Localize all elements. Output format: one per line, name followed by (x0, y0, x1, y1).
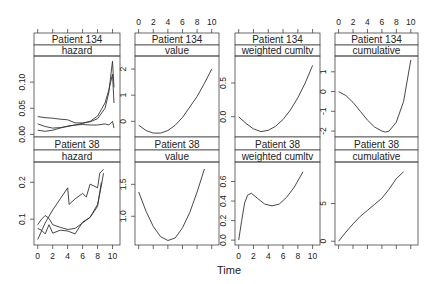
plot-frame (335, 162, 418, 245)
series-line (38, 74, 114, 128)
y-tick-label: 0.00 (17, 126, 27, 143)
strip-patient-label: Patient 134 (52, 34, 103, 45)
y-tick-label: 5 (318, 201, 328, 206)
x-tick-label: 0 (136, 17, 141, 27)
plot-frame (34, 162, 120, 245)
strip-patient-label: Patient 38 (154, 139, 199, 150)
strip-patient-label: Patient 38 (354, 139, 399, 150)
strip-variable-label: weighted cumltv (241, 151, 314, 162)
x-tick-label: 2 (351, 17, 356, 27)
strip-variable-label: cumulative (353, 45, 401, 56)
x-tick-label: 10 (108, 251, 118, 261)
lattice-chart: Patient 134hazard0.000.050.10Patient 134… (0, 0, 442, 284)
y-tick-label: 1.5 (118, 178, 128, 190)
x-tick-label: 4 (65, 251, 70, 261)
y-tick-label: 0 (318, 239, 328, 244)
strip-variable-label: weighted cumltv (241, 45, 314, 56)
panel-1-0: Patient 38hazard0.10.20246810 (17, 137, 120, 261)
x-axis-label: Time (217, 264, 241, 276)
strip-variable-label: value (165, 151, 189, 162)
y-tick-label: 0.05 (17, 100, 27, 117)
panel-1-1: Patient 38value1.01.5 (118, 137, 219, 249)
panel-0-1: Patient 134value0120246810 (118, 17, 219, 137)
y-tick-label: 0.6 (218, 175, 228, 187)
x-tick-label: 6 (281, 251, 286, 261)
x-tick-label: 10 (406, 17, 416, 27)
y-tick-label: 0.1 (17, 213, 27, 225)
x-tick-label: 4 (365, 17, 370, 27)
strip-patient-label: Patient 134 (152, 34, 203, 45)
x-tick-label: 10 (308, 251, 318, 261)
x-tick-label: 0 (336, 17, 341, 27)
y-tick-label: 0.10 (17, 74, 27, 91)
strip-variable-label: cumulative (353, 151, 401, 162)
strip-patient-label: Patient 38 (54, 139, 99, 150)
strip-patient-label: Patient 134 (252, 34, 303, 45)
plot-frame (135, 56, 219, 137)
x-tick-label: 8 (195, 17, 200, 27)
y-tick-label: 0.5 (218, 77, 228, 89)
y-tick-label: 0.2 (218, 214, 228, 226)
x-tick-label: 6 (380, 17, 385, 27)
chart-canvas: Patient 134hazard0.000.050.10Patient 134… (0, 0, 442, 284)
y-tick-label: -1 (318, 107, 328, 115)
y-tick-label: 2 (118, 66, 128, 71)
series-line (239, 65, 313, 131)
strip-variable-label: value (165, 45, 189, 56)
y-tick-label: 1 (118, 93, 128, 98)
y-tick-label: 1.0 (118, 210, 128, 222)
strip-variable-label: hazard (62, 151, 93, 162)
y-tick-label: -2 (318, 127, 328, 135)
series-line (139, 69, 212, 133)
panel-0-2: Patient 134weighted cumltv0.00.5 (218, 29, 320, 137)
panel-0-3: Patient 134cumulative-2-1010246810 (318, 17, 418, 137)
x-tick-label: 2 (50, 251, 55, 261)
series-line (339, 172, 404, 241)
panel-1-3: Patient 38cumulative05 (318, 137, 418, 249)
series-line (38, 61, 114, 123)
strip-patient-label: Patient 38 (255, 139, 300, 150)
x-tick-label: 0 (236, 251, 241, 261)
plot-frame (135, 162, 219, 245)
x-tick-label: 4 (266, 251, 271, 261)
x-tick-label: 2 (251, 251, 256, 261)
series-line (339, 60, 411, 132)
panel-0-0: Patient 134hazard0.000.050.10 (17, 29, 120, 143)
x-tick-label: 2 (151, 17, 156, 27)
panels-group: Patient 134hazard0.000.050.10Patient 134… (17, 17, 418, 261)
y-tick-label: 1 (318, 69, 328, 74)
series-line (38, 173, 104, 229)
series-line (239, 172, 303, 240)
series-line (139, 169, 205, 241)
y-tick-label: 0.0 (218, 111, 228, 123)
x-tick-label: 4 (166, 17, 171, 27)
y-tick-label: 0 (118, 119, 128, 124)
series-line (38, 182, 102, 234)
x-tick-label: 6 (80, 251, 85, 261)
strip-patient-label: Patient 134 (351, 34, 402, 45)
panel-1-2: Patient 38weighted cumltv0.00.20.40.6024… (218, 137, 320, 261)
strip-variable-label: hazard (62, 45, 93, 56)
x-tick-label: 6 (180, 17, 185, 27)
plot-frame (235, 162, 320, 245)
y-tick-label: 0.2 (17, 176, 27, 188)
y-tick-label: 0.0 (218, 234, 228, 246)
x-tick-label: 8 (394, 17, 399, 27)
x-tick-label: 0 (35, 251, 40, 261)
y-tick-label: 0.4 (218, 195, 228, 207)
x-tick-label: 8 (295, 251, 300, 261)
y-tick-label: 0 (318, 89, 328, 94)
x-tick-label: 10 (207, 17, 217, 27)
x-tick-label: 8 (95, 251, 100, 261)
